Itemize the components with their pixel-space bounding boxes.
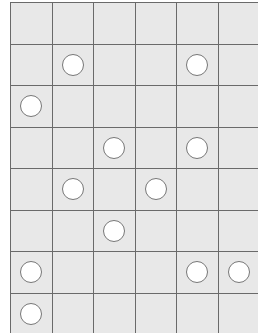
board-cell-r2-c3[interactable] — [136, 86, 178, 128]
board-cell-r5-c5[interactable] — [219, 211, 259, 253]
board-cell-r7-c2[interactable] — [94, 294, 136, 333]
board-cell-r6-c4[interactable] — [177, 252, 219, 294]
board-cell-r4-c2[interactable] — [94, 169, 136, 211]
board-cell-r1-c4[interactable] — [177, 45, 219, 87]
board-cell-r6-c1[interactable] — [53, 252, 95, 294]
board-cell-r0-c5[interactable] — [219, 3, 259, 45]
board-cell-r2-c2[interactable] — [94, 86, 136, 128]
board-cell-r5-c0[interactable] — [11, 211, 53, 253]
white-stone-icon — [103, 137, 125, 159]
white-stone-icon — [20, 261, 42, 283]
board-cell-r1-c5[interactable] — [219, 45, 259, 87]
board-cell-r0-c0[interactable] — [11, 3, 53, 45]
board-cell-r3-c0[interactable] — [11, 128, 53, 170]
board-cell-r7-c1[interactable] — [53, 294, 95, 333]
board-cell-r1-c1[interactable] — [53, 45, 95, 87]
board-cell-r7-c4[interactable] — [177, 294, 219, 333]
board-cell-r0-c2[interactable] — [94, 3, 136, 45]
board-cell-r7-c5[interactable] — [219, 294, 259, 333]
board-cell-r6-c0[interactable] — [11, 252, 53, 294]
board-cell-r7-c3[interactable] — [136, 294, 178, 333]
board-cell-r2-c4[interactable] — [177, 86, 219, 128]
board-cell-r5-c3[interactable] — [136, 211, 178, 253]
white-stone-icon — [62, 54, 84, 76]
white-stone-icon — [186, 54, 208, 76]
board-cell-r2-c0[interactable] — [11, 86, 53, 128]
white-stone-icon — [20, 95, 42, 117]
board-cell-r7-c0[interactable] — [11, 294, 53, 333]
board-cell-r0-c3[interactable] — [136, 3, 178, 45]
board-cell-r1-c0[interactable] — [11, 45, 53, 87]
board-cell-r3-c3[interactable] — [136, 128, 178, 170]
board-cell-r2-c1[interactable] — [53, 86, 95, 128]
white-stone-icon — [228, 261, 250, 283]
board-cell-r3-c5[interactable] — [219, 128, 259, 170]
board-cell-r6-c5[interactable] — [219, 252, 259, 294]
board-cell-r4-c4[interactable] — [177, 169, 219, 211]
white-stone-icon — [103, 220, 125, 242]
board-cell-r1-c2[interactable] — [94, 45, 136, 87]
white-stone-icon — [145, 178, 167, 200]
board-cell-r3-c1[interactable] — [53, 128, 95, 170]
white-stone-icon — [62, 178, 84, 200]
board-cell-r0-c1[interactable] — [53, 3, 95, 45]
game-board — [10, 2, 258, 333]
board-cell-r2-c5[interactable] — [219, 86, 259, 128]
board-cell-r4-c3[interactable] — [136, 169, 178, 211]
white-stone-icon — [20, 303, 42, 325]
board-cell-r5-c1[interactable] — [53, 211, 95, 253]
board-cell-r5-c4[interactable] — [177, 211, 219, 253]
white-stone-icon — [186, 137, 208, 159]
board-cell-r5-c2[interactable] — [94, 211, 136, 253]
board-cell-r3-c4[interactable] — [177, 128, 219, 170]
board-cell-r4-c1[interactable] — [53, 169, 95, 211]
board-cell-r1-c3[interactable] — [136, 45, 178, 87]
board-cell-r4-c0[interactable] — [11, 169, 53, 211]
white-stone-icon — [186, 261, 208, 283]
board-cell-r4-c5[interactable] — [219, 169, 259, 211]
board-cell-r3-c2[interactable] — [94, 128, 136, 170]
board-cell-r0-c4[interactable] — [177, 3, 219, 45]
board-cell-r6-c3[interactable] — [136, 252, 178, 294]
board-cell-r6-c2[interactable] — [94, 252, 136, 294]
